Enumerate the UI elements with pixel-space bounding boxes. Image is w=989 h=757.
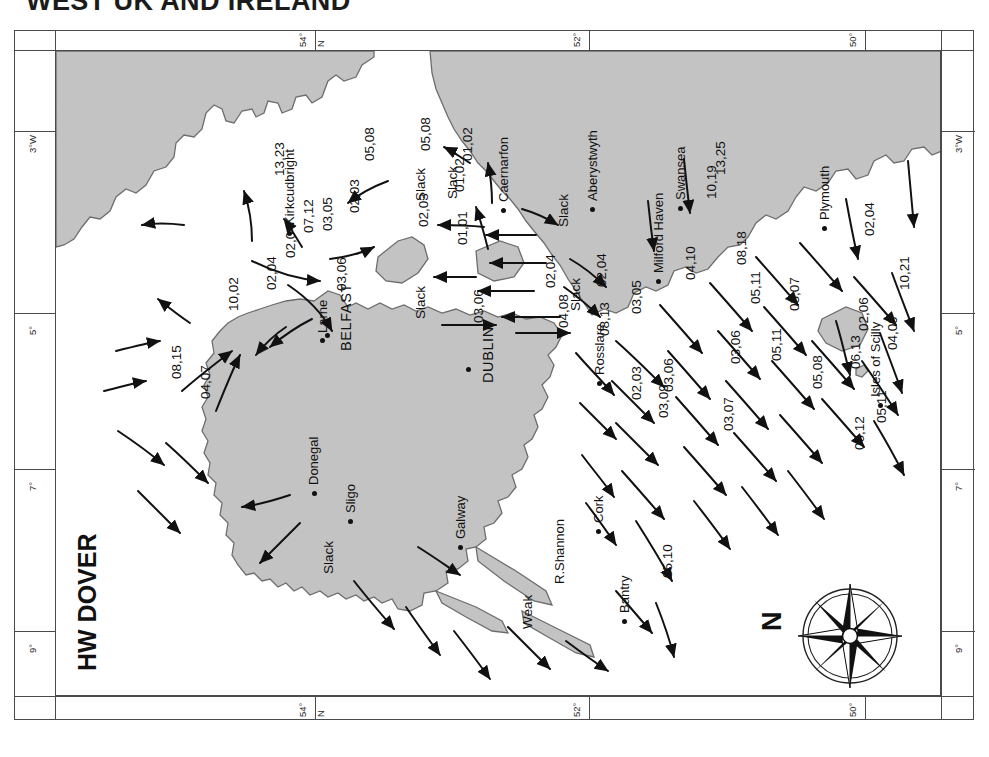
- tidal-rate-label: 10,02: [226, 277, 241, 311]
- city-label: Galway: [453, 496, 468, 539]
- tidal-rate-label: 04,10: [683, 246, 698, 280]
- arrow-cs-15: [734, 433, 776, 481]
- graticule-tick-bottom-50: [865, 696, 866, 720]
- land-ireland: [202, 291, 562, 611]
- graticule-tick-right-3w: [941, 131, 975, 132]
- tidal-rate-label: 13,25: [713, 141, 728, 175]
- tidal-rate-label: 05,11: [748, 271, 763, 304]
- slack-label: Slack: [568, 278, 583, 311]
- graticule-label-bottom-1: N: [315, 710, 326, 717]
- graticule-label-left-2: 7°: [27, 482, 38, 491]
- arrow-cs-22: [800, 243, 842, 291]
- city-dot: [458, 545, 463, 550]
- map-outer-frame: 54°N52°50° 54°N52°50° 3°W5°7°9° 3°W5°7°9…: [14, 30, 974, 720]
- city-label: Cork: [591, 496, 606, 523]
- tidal-rate-label: 02,04: [283, 224, 298, 258]
- city-dot: [501, 208, 506, 213]
- slack-label: Slack: [556, 194, 571, 227]
- city-label: BELFAST: [338, 283, 354, 351]
- tidal-rate-label: 08,13: [597, 302, 612, 336]
- city-dot: [320, 338, 325, 343]
- graticule-label-top-3: 50°: [847, 33, 858, 47]
- graticule-right-line: [941, 31, 942, 719]
- graticule-tick-top-52: [589, 31, 590, 50]
- arrow-cs-4: [622, 471, 664, 519]
- city-label: Bantry: [617, 575, 632, 613]
- graticule-label-bottom-3: 50°: [847, 703, 858, 717]
- graticule-tick-left-9: [15, 631, 55, 632]
- tidal-rate-label: 05,08: [810, 355, 825, 389]
- arrow-cs-16: [742, 487, 778, 535]
- arrow-cs-9: [676, 397, 718, 445]
- land-dingle-peninsula: [436, 591, 508, 633]
- tidal-rate-label: 05,11: [769, 328, 784, 361]
- arrow-nc-7: [116, 341, 160, 351]
- arrow-iw-3: [138, 491, 180, 533]
- tidal-rate-label: 03,09: [656, 384, 671, 418]
- graticule-label-right-1: 5°: [953, 326, 964, 335]
- tidal-rate-label: 02,03: [629, 366, 644, 400]
- arrow-iw-1: [118, 431, 164, 465]
- tidal-rate-label: 03,06: [728, 330, 743, 364]
- arrow-nc-1: [244, 191, 252, 241]
- tidal-rate-label: 02,06: [856, 297, 871, 331]
- city-label: R.Shannon: [552, 519, 567, 584]
- arrow-cs-19: [772, 361, 814, 409]
- arrow-ie-2: [580, 403, 616, 439]
- graticule-label-top-0: 54°: [297, 33, 308, 47]
- arrow-iw-8: [454, 631, 490, 679]
- graticule-label-right-0: 3°W: [953, 135, 964, 153]
- graticule-tick-right-7: [941, 469, 975, 470]
- tide-state-label: HW DOVER: [73, 534, 102, 672]
- graticule-bottom-line: [15, 696, 973, 697]
- slack-label: Slack: [413, 286, 428, 319]
- tidal-rate-label: 01,01: [455, 211, 470, 245]
- tidal-rate-label: 05,08: [362, 127, 377, 161]
- city-dot: [622, 619, 627, 624]
- arrow-cs-12: [710, 283, 752, 331]
- graticule-label-top-2: 52°: [571, 33, 582, 47]
- arrow-solway-4: [476, 207, 488, 249]
- city-dot: [348, 519, 353, 524]
- graticule-label-right-2: 7°: [953, 482, 964, 491]
- tidal-rate-label: 07,12: [301, 199, 316, 233]
- city-label: Larne: [315, 300, 330, 333]
- arrow-nc-3: [252, 261, 320, 281]
- graticule-label-left-0: 3°W: [27, 135, 38, 153]
- arrow-cs-3: [616, 423, 658, 465]
- city-dot: [656, 279, 661, 284]
- tidal-rate-label: 03,05: [320, 197, 335, 231]
- tidal-rate-label: 08,18: [734, 231, 749, 265]
- city-label: DUBLIN: [480, 326, 496, 383]
- arrow-ie-3: [582, 455, 614, 497]
- graticule-label-bottom-2: 52°: [571, 703, 582, 717]
- arrow-iw-2: [166, 443, 208, 483]
- graticule-label-bottom-0: 54°: [297, 703, 308, 717]
- city-dot: [596, 529, 601, 534]
- tidal-rate-label: 02,03: [347, 179, 362, 213]
- city-label: Swansea: [673, 147, 688, 200]
- graticule-tick-left-7: [15, 469, 55, 470]
- city-label: Aberystwyth: [585, 130, 600, 201]
- compass-north-label: N: [757, 612, 788, 632]
- arrow-cs-27: [874, 421, 904, 475]
- land-anglesey: [476, 241, 524, 281]
- city-label: Sligo: [343, 484, 358, 513]
- city-label: Plymouth: [817, 166, 832, 220]
- arrow-cs-7: [660, 305, 702, 353]
- tidal-rate-label: 02,04: [264, 256, 279, 290]
- tidal-rate-label: 05,11: [874, 390, 889, 423]
- tidal-rate-label: 05,10: [660, 544, 675, 578]
- slack-label: Slack: [445, 166, 460, 199]
- arrow-ch-1: [846, 199, 858, 259]
- page-title: WEST UK AND IRELAND: [26, 0, 351, 17]
- land-isle-of-man: [376, 237, 428, 283]
- graticule-tick-left-5: [15, 313, 55, 314]
- compass-rose-icon: [790, 576, 910, 696]
- tidal-rate-label: 05,08: [418, 117, 433, 151]
- tidal-rate-label: 13,23: [272, 142, 287, 176]
- graticule-label-top-1: N: [315, 40, 326, 47]
- tidal-rate-label: 06,12: [852, 416, 867, 450]
- city-label: Milford Haven: [651, 193, 666, 273]
- tidal-rate-label: 04,09: [885, 316, 900, 350]
